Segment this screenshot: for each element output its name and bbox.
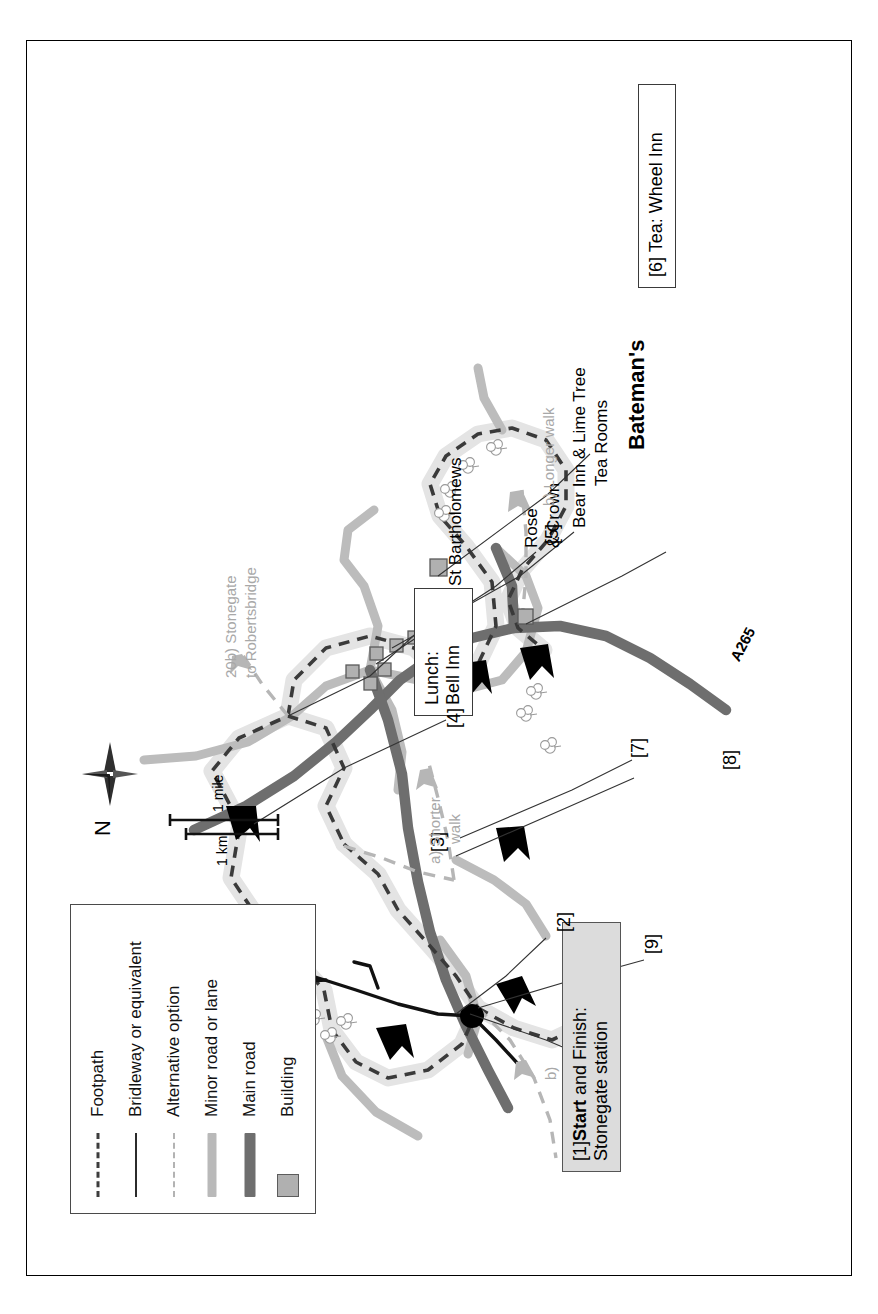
legend-label-footpath: Footpath (88, 1050, 108, 1117)
legend-key-main-road (245, 1133, 256, 1197)
compass-north-label: N (90, 820, 115, 836)
start-finish-bold: Start (570, 1100, 590, 1141)
legend-key-bridleway (135, 1133, 137, 1197)
label-batemans: Bateman's (624, 340, 649, 450)
waypoint-9: [9] (642, 934, 663, 954)
legend-label-alternative: Alternative option (164, 986, 184, 1117)
scale-label-km: 1 km (214, 836, 230, 866)
start-finish-marker: [1] (570, 1141, 590, 1161)
legend-key-alternative (173, 1133, 175, 1197)
scale-label-mile: 1 mile (210, 775, 226, 812)
label-longer-walk: b) Longer walk (540, 408, 557, 506)
label-link-20b-line2: to Robertsbridge (242, 567, 259, 678)
map-canvas: Footpath Bridleway or equivalent Alterna… (26, 40, 852, 1276)
legend-label-building: Building (278, 1057, 298, 1118)
legend-label-minor-road: Minor road or lane (202, 979, 222, 1117)
lunch-line2: Bell Inn (443, 599, 464, 705)
label-link-20b-line1: 20b) Stonegate (222, 575, 239, 678)
legend-key-building (277, 1174, 299, 1197)
compass-star-icon (82, 738, 138, 810)
label-rose-crown-line1: Rose (522, 508, 542, 548)
callout-lunch: Lunch: Bell Inn (414, 588, 473, 716)
waypoint-7: [7] (628, 738, 649, 758)
start-finish-rest: and Finish: (570, 1007, 590, 1100)
callout-tea: [6] Tea: Wheel Inn (638, 84, 676, 288)
waypoint-2: [2] (554, 912, 575, 932)
tree-symbols (279, 440, 561, 1044)
label-bear-inn-line1: Bear Inn & Lime Tree (570, 367, 590, 528)
start-finish-line2: Stonegate station (591, 933, 612, 1161)
tea-line1: [6] Tea: Wheel Inn (646, 95, 667, 277)
label-st-bartholomews: St Bartholomews (446, 458, 466, 587)
map-legend: Footpath Bridleway or equivalent Alterna… (70, 904, 316, 1214)
legend-key-footpath (97, 1133, 100, 1197)
label-shorter-walk-line2: walk (446, 814, 463, 844)
label-shorter-walk-line1: a) Shorter (426, 797, 443, 864)
map-frame: Footpath Bridleway or equivalent Alterna… (26, 40, 852, 1276)
label-b-tick: b) (542, 1067, 559, 1080)
scale-bar: 1 km 1 mile (166, 678, 284, 868)
map-page: Footpath Bridleway or equivalent Alterna… (0, 0, 878, 1314)
waypoint-8: [8] (720, 750, 741, 770)
label-bear-inn-line2: Tea Rooms (592, 400, 612, 486)
legend-label-bridleway: Bridleway or equivalent (126, 941, 146, 1117)
legend-label-main-road: Main road (240, 1041, 260, 1117)
compass-rose: N (82, 740, 138, 836)
legend-key-minor-road (208, 1133, 217, 1197)
callout-start-finish: [1]Start and Finish: Stonegate station (562, 922, 621, 1172)
lunch-line1: Lunch: (422, 599, 443, 705)
waypoint-4: [4] (444, 708, 465, 728)
